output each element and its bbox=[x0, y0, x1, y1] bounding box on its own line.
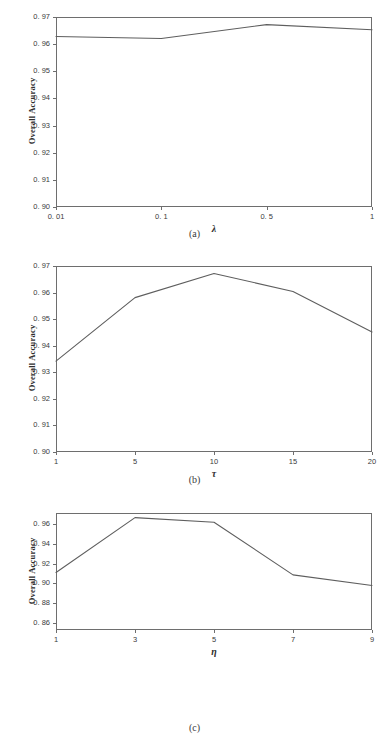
x-tick-label-b-2: 10 bbox=[194, 457, 234, 466]
y-tick-c-3 bbox=[53, 564, 56, 565]
x-tick-a-0 bbox=[56, 207, 57, 210]
y-tick-a-6 bbox=[53, 44, 56, 45]
x-tick-label-a-1: 0. 1 bbox=[141, 212, 181, 221]
y-tick-c-1 bbox=[53, 603, 56, 604]
y-tick-label-b-0: 0. 90 bbox=[14, 447, 50, 456]
y-tick-c-4 bbox=[53, 544, 56, 545]
y-tick-a-2 bbox=[53, 153, 56, 154]
y-tick-label-a-3: 0. 93 bbox=[14, 121, 50, 130]
x-tick-label-a-2: 0. 5 bbox=[247, 212, 287, 221]
y-tick-label-c-4: 0. 94 bbox=[14, 539, 50, 548]
x-tick-b-3 bbox=[293, 452, 294, 455]
x-tick-c-4 bbox=[372, 630, 373, 633]
y-tick-label-a-7: 0. 97 bbox=[14, 12, 50, 21]
y-tick-b-1 bbox=[53, 425, 56, 426]
x-tick-b-0 bbox=[56, 452, 57, 455]
y-tick-b-2 bbox=[53, 399, 56, 400]
chart-panel-b: Overall Accuracy τ 0. 900. 910. 920. 930… bbox=[0, 250, 389, 498]
x-tick-a-3 bbox=[372, 207, 373, 210]
x-tick-label-a-3: 1 bbox=[352, 212, 389, 221]
y-tick-label-a-1: 0. 91 bbox=[14, 175, 50, 184]
y-tick-label-c-5: 0. 96 bbox=[14, 519, 50, 528]
y-tick-a-1 bbox=[53, 180, 56, 181]
y-tick-a-4 bbox=[53, 98, 56, 99]
panel-caption-b: (b) bbox=[0, 474, 389, 485]
y-tick-a-5 bbox=[53, 71, 56, 72]
x-tick-b-1 bbox=[135, 452, 136, 455]
y-axis-label-b: Overall Accuracy bbox=[27, 320, 37, 396]
y-tick-label-b-3: 0. 93 bbox=[14, 367, 50, 376]
plot-area-a: Overall Accuracy λ 0. 900. 910. 920. 930… bbox=[0, 0, 389, 250]
x-tick-label-c-2: 5 bbox=[194, 635, 234, 644]
y-tick-label-b-4: 0. 94 bbox=[14, 341, 50, 350]
y-tick-b-7 bbox=[53, 266, 56, 267]
plot-area-c: Overall Accuracy η 0. 860. 880. 900. 920… bbox=[0, 498, 389, 748]
x-tick-c-2 bbox=[214, 630, 215, 633]
y-tick-b-5 bbox=[53, 319, 56, 320]
chart-panel-a: Overall Accuracy λ 0. 900. 910. 920. 930… bbox=[0, 0, 389, 250]
plot-area-b: Overall Accuracy τ 0. 900. 910. 920. 930… bbox=[0, 250, 389, 498]
x-tick-a-1 bbox=[161, 207, 162, 210]
y-tick-label-c-3: 0. 92 bbox=[14, 559, 50, 568]
panel-caption-c: (c) bbox=[0, 722, 389, 733]
line-series-c bbox=[0, 498, 389, 748]
y-tick-b-4 bbox=[53, 346, 56, 347]
x-tick-label-c-3: 7 bbox=[273, 635, 313, 644]
y-tick-a-3 bbox=[53, 126, 56, 127]
x-tick-label-b-3: 15 bbox=[273, 457, 313, 466]
y-tick-label-b-5: 0. 95 bbox=[14, 314, 50, 323]
chart-panel-c: Overall Accuracy η 0. 860. 880. 900. 920… bbox=[0, 498, 389, 748]
x-tick-a-2 bbox=[267, 207, 268, 210]
y-tick-a-7 bbox=[53, 17, 56, 18]
x-tick-b-4 bbox=[372, 452, 373, 455]
x-tick-label-c-4: 9 bbox=[352, 635, 389, 644]
y-tick-label-a-6: 0. 96 bbox=[14, 39, 50, 48]
y-tick-label-c-1: 0. 88 bbox=[14, 598, 50, 607]
y-tick-label-a-0: 0. 90 bbox=[14, 202, 50, 211]
x-tick-c-0 bbox=[56, 630, 57, 633]
x-tick-label-b-0: 1 bbox=[36, 457, 76, 466]
y-tick-label-c-0: 0. 86 bbox=[14, 618, 50, 627]
y-axis-label-a: Overall Accuracy bbox=[27, 73, 37, 149]
x-axis-label-c: η bbox=[56, 646, 372, 657]
y-tick-c-5 bbox=[53, 524, 56, 525]
y-tick-label-b-7: 0. 97 bbox=[14, 261, 50, 270]
y-tick-label-a-2: 0. 92 bbox=[14, 148, 50, 157]
y-tick-label-a-5: 0. 95 bbox=[14, 66, 50, 75]
y-tick-label-b-6: 0. 96 bbox=[14, 288, 50, 297]
y-tick-label-b-2: 0. 92 bbox=[14, 394, 50, 403]
x-tick-label-b-1: 5 bbox=[115, 457, 155, 466]
x-tick-label-a-0: 0. 01 bbox=[36, 212, 76, 221]
y-tick-b-3 bbox=[53, 372, 56, 373]
y-tick-c-2 bbox=[53, 583, 56, 584]
y-tick-b-6 bbox=[53, 293, 56, 294]
panel-caption-a: (a) bbox=[0, 228, 389, 239]
y-tick-label-b-1: 0. 91 bbox=[14, 420, 50, 429]
x-tick-c-3 bbox=[293, 630, 294, 633]
x-tick-label-b-4: 20 bbox=[352, 457, 389, 466]
x-tick-b-2 bbox=[214, 452, 215, 455]
x-tick-label-c-0: 1 bbox=[36, 635, 76, 644]
x-tick-label-c-1: 3 bbox=[115, 635, 155, 644]
y-tick-label-c-2: 0. 90 bbox=[14, 578, 50, 587]
y-tick-label-a-4: 0. 94 bbox=[14, 93, 50, 102]
x-tick-c-1 bbox=[135, 630, 136, 633]
y-tick-c-0 bbox=[53, 623, 56, 624]
